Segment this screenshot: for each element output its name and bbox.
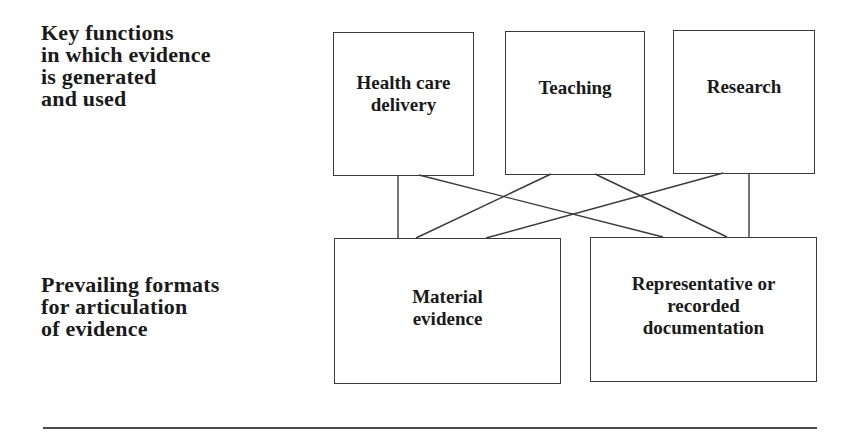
node-label-line: Representative or bbox=[632, 273, 776, 295]
node-health-care-delivery: Health care delivery bbox=[333, 32, 474, 176]
edge-teaching-to-material bbox=[416, 174, 551, 238]
edge-research-to-material bbox=[486, 173, 723, 238]
node-research: Research bbox=[673, 30, 815, 174]
node-label-line: documentation bbox=[632, 317, 776, 339]
node-label-line: Research bbox=[707, 76, 782, 98]
node-label-line: evidence bbox=[412, 308, 483, 330]
bottom-divider bbox=[43, 427, 817, 429]
node-label-line: Health care bbox=[356, 72, 450, 94]
node-teaching: Teaching bbox=[505, 31, 645, 175]
node-label-line: delivery bbox=[356, 94, 450, 116]
node-label-line: Material bbox=[412, 286, 483, 308]
edge-teaching-to-representative bbox=[595, 174, 727, 237]
edge-health-to-representative bbox=[419, 175, 663, 237]
node-label-line: Teaching bbox=[538, 77, 611, 99]
node-material-evidence: Material evidence bbox=[334, 238, 561, 384]
node-representative-documentation: Representative or recorded documentation bbox=[590, 237, 817, 382]
node-label-line: recorded bbox=[632, 295, 776, 317]
